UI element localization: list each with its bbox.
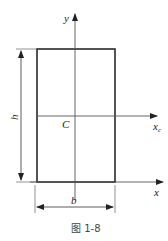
rectangle-section <box>37 49 115 182</box>
centroid-label: C <box>62 118 70 130</box>
figure-caption: 图 1-8 <box>71 223 101 234</box>
xc-axis-label: xc <box>152 120 162 134</box>
cross-section-diagram: y xc x C h b 图 1-8 <box>0 0 168 241</box>
y-axis-label: y <box>63 12 69 24</box>
x-axis-label: x <box>153 186 159 198</box>
b-dimension-label: b <box>71 194 77 206</box>
h-dimension-label: h <box>8 114 20 120</box>
